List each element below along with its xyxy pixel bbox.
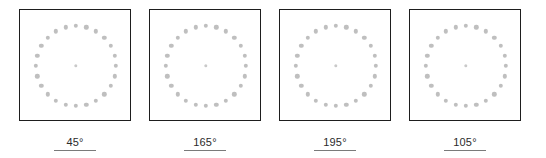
ring-dot	[63, 102, 67, 106]
ring-dot	[429, 44, 433, 48]
ring-dot	[295, 53, 299, 57]
ring-dot	[484, 98, 488, 102]
ring-dot	[504, 64, 508, 68]
ring-dot	[214, 25, 218, 29]
panel-caption: 105°	[444, 136, 486, 151]
label-underline	[444, 150, 486, 151]
center-dot	[464, 64, 467, 67]
ring-dot	[299, 84, 303, 88]
stimulus-panel: 105°	[407, 9, 523, 151]
ring-dot	[46, 36, 50, 40]
ring-dot	[39, 44, 43, 48]
ring-dot	[242, 74, 246, 78]
ring-dot	[314, 98, 318, 102]
ring-dot	[112, 53, 116, 57]
dot-ring-canvas	[279, 9, 391, 121]
ring-dot	[492, 36, 496, 40]
ring-dot	[368, 84, 372, 88]
ring-dot	[39, 84, 43, 88]
ring-dot	[444, 29, 448, 33]
ring-dot	[46, 92, 50, 96]
ring-dot	[232, 92, 236, 96]
angle-label: 165°	[190, 136, 220, 150]
ring-dot	[54, 29, 58, 33]
ring-dot	[193, 102, 197, 106]
center-dot	[204, 64, 207, 67]
panel-caption: 165°	[184, 136, 226, 151]
ring-dot	[474, 102, 478, 106]
ring-dot	[242, 53, 246, 57]
panel-caption: 195°	[314, 136, 356, 151]
ring-dot	[176, 92, 180, 96]
ring-dot	[164, 64, 168, 68]
ring-dot	[306, 92, 310, 96]
ring-dot	[193, 25, 197, 29]
ring-dot	[464, 24, 468, 28]
ring-dot	[112, 74, 116, 78]
ring-dot	[436, 36, 440, 40]
ring-dot	[54, 98, 58, 102]
ring-dot	[35, 74, 39, 78]
dot-ring-canvas	[409, 9, 521, 121]
ring-dot	[204, 104, 208, 108]
dot-ring-canvas	[149, 9, 261, 121]
stimulus-panel: 45°	[17, 9, 133, 151]
ring-dot	[224, 98, 228, 102]
ring-dot	[102, 92, 106, 96]
ring-dot	[94, 98, 98, 102]
ring-dot	[429, 84, 433, 88]
ring-dot	[74, 24, 78, 28]
ring-dot	[238, 44, 242, 48]
ring-dot	[294, 64, 298, 68]
ring-dot	[84, 25, 88, 29]
ring-dot	[238, 84, 242, 88]
ring-dot	[502, 53, 506, 57]
label-underline	[184, 150, 226, 151]
ring-dot	[108, 44, 112, 48]
ring-dot	[108, 84, 112, 88]
ring-dot	[323, 102, 327, 106]
ring-dot	[362, 36, 366, 40]
ring-dot	[372, 74, 376, 78]
ring-dot	[436, 92, 440, 96]
ring-dot	[444, 98, 448, 102]
angle-label: 105°	[450, 136, 480, 150]
center-dot	[74, 64, 77, 67]
ring-dot	[214, 102, 218, 106]
label-underline	[54, 150, 96, 151]
ring-dot	[344, 25, 348, 29]
ring-dot	[34, 64, 38, 68]
ring-dot	[453, 25, 457, 29]
ring-dot	[498, 44, 502, 48]
ring-dot	[299, 44, 303, 48]
stimulus-panel: 195°	[277, 9, 393, 151]
ring-dot	[169, 44, 173, 48]
ring-dot	[176, 36, 180, 40]
ring-dot	[474, 25, 478, 29]
angle-label: 45°	[63, 136, 86, 150]
ring-dot	[372, 53, 376, 57]
ring-dot	[362, 92, 366, 96]
ring-dot	[169, 84, 173, 88]
ring-dot	[94, 29, 98, 33]
ring-dot	[114, 64, 118, 68]
ring-dot	[35, 53, 39, 57]
ring-dot	[232, 36, 236, 40]
ring-dot	[306, 36, 310, 40]
ring-dot	[502, 74, 506, 78]
ring-dot	[165, 74, 169, 78]
ring-dot	[425, 74, 429, 78]
ring-dot	[464, 104, 468, 108]
ring-dot	[224, 29, 228, 33]
ring-dot	[204, 24, 208, 28]
ring-dot	[453, 102, 457, 106]
ring-dot	[84, 102, 88, 106]
stimulus-panel-row: 45°165°195°105°	[0, 0, 546, 151]
ring-dot	[244, 64, 248, 68]
ring-dot	[323, 25, 327, 29]
ring-dot	[374, 64, 378, 68]
ring-dot	[354, 98, 358, 102]
ring-dot	[498, 84, 502, 88]
ring-dot	[354, 29, 358, 33]
stimulus-panel: 165°	[147, 9, 263, 151]
